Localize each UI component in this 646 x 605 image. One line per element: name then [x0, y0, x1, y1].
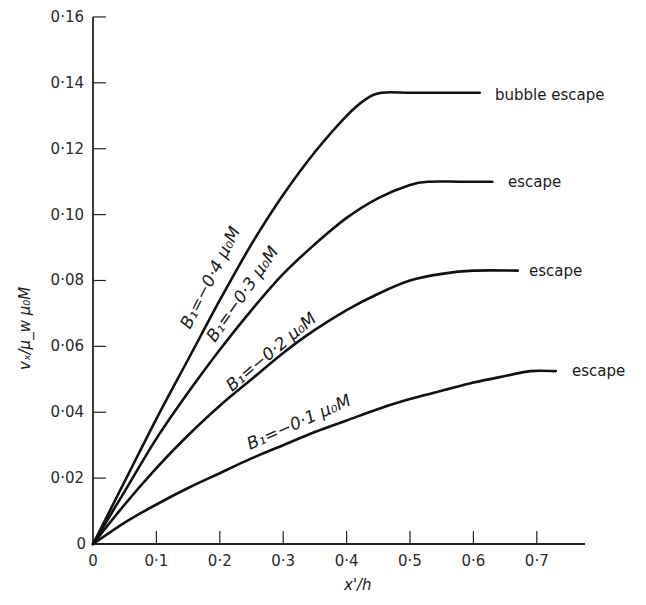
x-tick-label: 0·7: [525, 552, 549, 570]
y-axis-title: vₓ/μ_w μ₀M: [16, 287, 35, 370]
y-tick-label: 0·06: [51, 337, 84, 355]
y-tick-label: 0·02: [51, 469, 84, 487]
x-tick-label: 0·3: [271, 552, 295, 570]
escape-label: escape: [508, 173, 561, 191]
x-ticks: 00·10·20·30·40·50·60·7: [88, 531, 549, 570]
curve-labels: bubble escapeB₁=−0·4 μ₀MescapeB₁=−0·3 μ₀…: [176, 86, 625, 454]
y-tick-label: 0·10: [51, 206, 84, 224]
x-tick-label: 0·1: [144, 552, 168, 570]
escape-label: escape: [572, 362, 625, 380]
escape-label: bubble escape: [495, 86, 604, 104]
y-tick-label: 0·16: [51, 8, 84, 26]
y-tick-label: 0·04: [51, 403, 84, 421]
x-tick-label: 0·2: [208, 552, 232, 570]
line-chart: 00·020·040·060·080·100·120·140·16 00·10·…: [0, 0, 646, 605]
curve-series-4: [93, 371, 556, 544]
x-axis-title: x'/h: [343, 576, 372, 594]
curve-series-2: [93, 181, 492, 544]
curves: [93, 92, 556, 544]
y-tick-label: 0·14: [51, 74, 84, 92]
x-tick-label: 0·5: [398, 552, 422, 570]
y-tick-label: 0: [76, 535, 86, 553]
escape-label: escape: [529, 262, 582, 280]
curve-label-b1: B₁=−0·2 μ₀M: [222, 308, 321, 395]
y-tick-label: 0·12: [51, 140, 84, 158]
curve-label-b1: B₁=−0·1 μ₀M: [243, 390, 353, 454]
y-ticks: 00·020·040·060·080·100·120·140·16: [51, 8, 106, 553]
x-tick-label: 0·6: [461, 552, 485, 570]
y-tick-label: 0·08: [51, 271, 84, 289]
x-tick-label: 0: [88, 552, 98, 570]
x-tick-label: 0·4: [335, 552, 359, 570]
curve-series-1: [93, 92, 480, 544]
